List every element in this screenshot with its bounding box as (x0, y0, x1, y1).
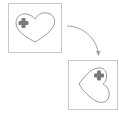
source-cross-icon (19, 18, 29, 28)
target-heart-icon (79, 68, 109, 102)
source-panel (9, 4, 62, 53)
target-frame (69, 61, 118, 110)
arrow-curve (67, 26, 98, 52)
target-panel (69, 61, 118, 110)
target-cross-icon (94, 71, 104, 81)
source-frame (9, 4, 62, 53)
transformation-diagram (0, 0, 119, 116)
transform-arrow (67, 26, 101, 56)
arrow-head-icon (96, 51, 101, 56)
